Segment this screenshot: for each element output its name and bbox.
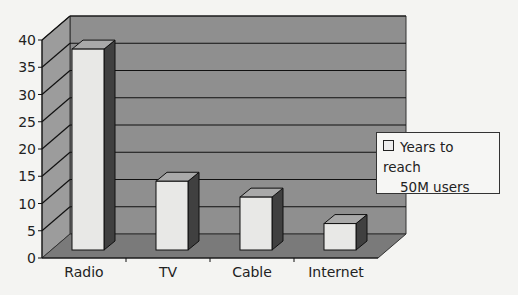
legend-label-line2: 50M users <box>383 177 495 197</box>
bar-side <box>188 172 199 250</box>
legend-swatch-icon <box>383 140 394 151</box>
x-category-label: Cable <box>232 264 272 280</box>
y-tick-label: 40 <box>18 32 36 48</box>
bar-cable <box>240 197 272 250</box>
y-tick-label: 0 <box>27 250 36 266</box>
y-tick-label: 30 <box>18 87 36 103</box>
y-tick-label: 5 <box>27 223 36 239</box>
bar-internet <box>324 224 356 250</box>
x-category-label: TV <box>158 264 178 280</box>
y-tick-label: 20 <box>18 141 36 157</box>
y-tick-label: 25 <box>18 114 36 130</box>
y-tick-label: 35 <box>18 59 36 75</box>
bar-side <box>104 40 115 250</box>
x-category-label: Radio <box>64 264 103 280</box>
bar-radio <box>72 49 104 250</box>
y-tick-label: 15 <box>18 168 36 184</box>
y-tick-label: 10 <box>18 196 36 212</box>
chart-legend: Years to reach 50M users <box>376 132 500 194</box>
x-category-label: Internet <box>308 264 364 280</box>
bar-tv <box>156 181 188 250</box>
bar-side <box>272 188 283 250</box>
